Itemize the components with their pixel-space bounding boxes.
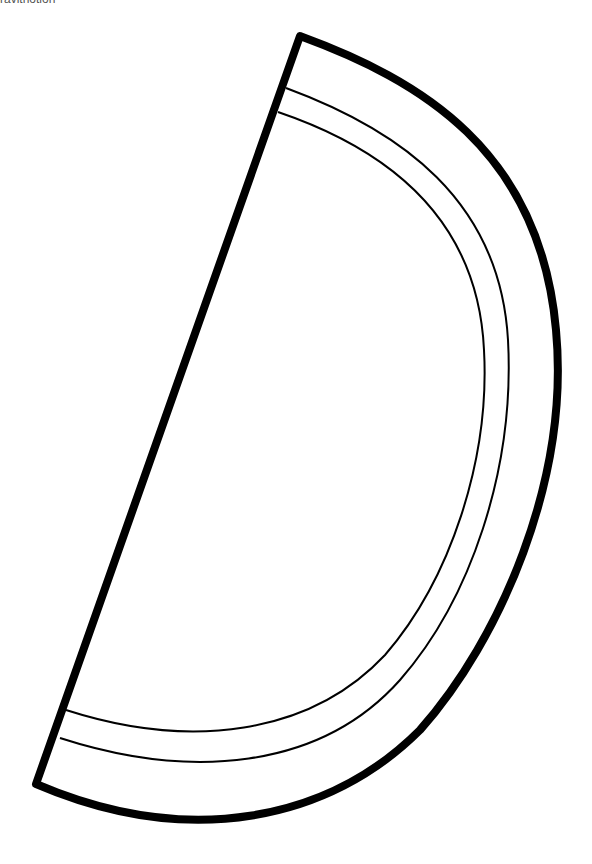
watermelon-slice-drawing <box>0 0 592 864</box>
outer-rind-outline <box>36 36 558 820</box>
